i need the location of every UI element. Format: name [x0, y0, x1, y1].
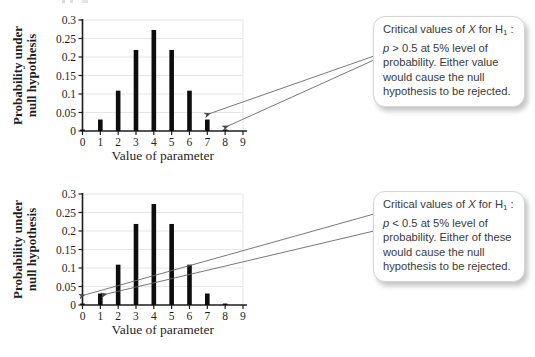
x-tick-label: 8	[222, 310, 228, 322]
x-tick-label: 0	[80, 136, 86, 148]
x-tick-label: 4	[151, 310, 157, 322]
bar-x5	[169, 50, 174, 131]
bar-x6	[187, 91, 192, 131]
annotation-arrow	[210, 56, 374, 114]
bar-x4	[152, 204, 157, 305]
x-tick-label: 7	[204, 136, 210, 148]
y-tick-label: 0.05	[56, 107, 76, 119]
bar-x6	[187, 265, 192, 305]
y-tick-label: 0.1	[62, 262, 77, 274]
y-axis-title-line2: null hypothesis	[24, 34, 39, 117]
x-tick-label: 5	[169, 310, 175, 322]
y-tick-label: 0	[70, 299, 76, 311]
x-axis-title: Value of parameter	[111, 322, 214, 337]
y-tick-label: 0	[70, 125, 76, 137]
y-tick-label: 0.25	[56, 207, 76, 219]
bar-x3	[134, 224, 139, 305]
bar-x8	[223, 130, 228, 131]
callout-critical-values-lower-tail: Critical values of X for H1 : p < 0.5 at…	[373, 191, 525, 282]
y-axis-title-line1: Probability under	[10, 200, 25, 299]
x-tick-label: 3	[133, 310, 139, 322]
bar-x0	[80, 130, 85, 131]
x-tick-label: 9	[240, 310, 246, 322]
y-tick-label: 0.2	[62, 51, 77, 63]
callout-text: Critical values of	[383, 23, 468, 35]
y-tick-label: 0.3	[62, 188, 77, 200]
bar-x2	[116, 91, 121, 131]
y-tick-label: 0.1	[62, 88, 77, 100]
bar-x4	[152, 30, 157, 131]
bar-x7	[205, 120, 210, 131]
y-tick-label: 0.05	[56, 281, 76, 293]
y-tick-label: 0.25	[56, 33, 76, 45]
x-tick-label: 1	[97, 136, 103, 148]
x-tick-label: 1	[97, 310, 103, 322]
x-tick-label: 5	[169, 136, 175, 148]
y-tick-label: 0.15	[56, 70, 76, 82]
bar-x1	[98, 294, 103, 305]
bar-x5	[169, 224, 174, 305]
x-tick-label: 0	[80, 310, 86, 322]
y-axis-title-line1: Probability under	[10, 26, 25, 125]
bar-x3	[134, 50, 139, 131]
x-tick-label: 2	[115, 310, 121, 322]
bar-x1	[98, 120, 103, 131]
x-tick-label: 7	[204, 310, 210, 322]
bar-x7	[205, 294, 210, 305]
x-axis-title: Value of parameter	[111, 148, 214, 163]
variable-x: X	[468, 198, 475, 210]
y-tick-label: 0.15	[56, 244, 76, 256]
bar-x0	[80, 304, 85, 305]
y-tick-label: 0.3	[62, 14, 77, 26]
annotation-arrow	[107, 231, 375, 294]
variable-x: X	[468, 23, 475, 35]
x-tick-label: 9	[240, 136, 246, 148]
x-tick-label: 6	[187, 310, 193, 322]
annotation-arrow	[85, 214, 375, 295]
y-tick-label: 0.2	[62, 225, 77, 237]
x-tick-label: 3	[133, 136, 139, 148]
figure-page: 00.050.10.150.20.250.30123456789Value of…	[0, 0, 535, 357]
callout-critical-values-upper-tail: Critical values of X for H1 : p > 0.5 at…	[373, 16, 525, 107]
x-tick-label: 8	[222, 136, 228, 148]
x-tick-label: 2	[115, 136, 121, 148]
callout-text: Critical values of	[383, 198, 468, 210]
y-axis-title-line2: null hypothesis	[24, 208, 39, 291]
bar-x8	[223, 304, 228, 305]
annotation-arrow	[228, 60, 374, 126]
x-tick-label: 6	[187, 136, 193, 148]
x-tick-label: 4	[151, 136, 157, 148]
